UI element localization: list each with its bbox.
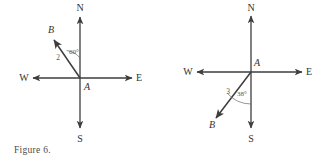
west-label: W (183, 66, 193, 77)
north-label: N (76, 2, 83, 13)
figure-panel-6: N S E W A B 2 60° Figure 6. (0, 0, 166, 162)
point-b-label: B (209, 119, 215, 130)
south-label: S (248, 133, 254, 144)
figure-6-caption: Figure 6. (14, 145, 51, 155)
east-label: E (136, 72, 142, 83)
figure-panel-7: N S E W A B 3 38° Figure 7. (166, 0, 332, 162)
angle-measure-label: 60° (69, 48, 79, 56)
segment-length-label: 2 (56, 53, 60, 62)
east-label: E (306, 66, 312, 77)
south-label: S (77, 133, 83, 144)
north-label: N (247, 2, 254, 13)
center-point-label: A (83, 81, 91, 92)
angle-measure-label: 38° (237, 90, 247, 98)
figure-7-diagram: N S E W A B 3 38° (166, 0, 332, 162)
point-b-label: B (48, 24, 54, 35)
center-point-label: A (253, 57, 261, 68)
segment-length-label: 3 (226, 87, 230, 96)
west-label: W (19, 72, 29, 83)
figure-board: N S E W A B 2 60° Figure 6. (0, 0, 332, 162)
figure-6-diagram: N S E W A B 2 60° (0, 0, 166, 162)
